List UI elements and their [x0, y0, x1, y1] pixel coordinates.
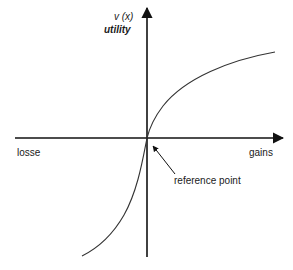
- value-curve: [82, 52, 275, 256]
- x-axis-left-label: losse: [17, 148, 40, 158]
- reference-point-arrow: [153, 146, 175, 174]
- value-function-diagram: [0, 0, 293, 270]
- y-axis-symbol-label: v (x): [114, 12, 133, 22]
- x-axis-right-label: gains: [249, 148, 273, 158]
- reference-point-label: reference point: [174, 176, 241, 186]
- y-axis-name-label: utility: [104, 25, 131, 35]
